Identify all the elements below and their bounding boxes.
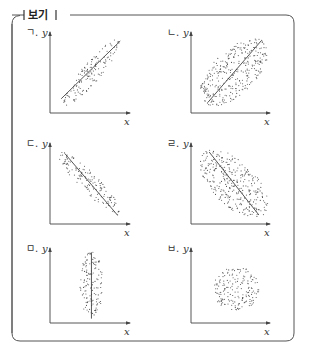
data-point [260, 71, 261, 72]
data-point [239, 165, 240, 166]
data-point [238, 297, 239, 298]
data-point [232, 269, 233, 270]
data-point [251, 294, 252, 295]
data-point [94, 176, 95, 177]
data-point [227, 164, 228, 165]
data-point [238, 61, 239, 62]
data-point [213, 159, 214, 160]
data-point [204, 100, 205, 101]
data-point [221, 181, 222, 182]
data-point [244, 179, 245, 180]
data-point [91, 67, 92, 68]
data-point [219, 282, 220, 283]
data-point [224, 88, 225, 89]
data-point [260, 210, 261, 211]
data-point [237, 208, 238, 209]
data-point [236, 71, 237, 72]
data-point [87, 74, 88, 75]
data-point [216, 85, 217, 86]
data-point [221, 305, 222, 306]
data-point [111, 60, 112, 61]
data-point [247, 49, 248, 50]
data-point [233, 180, 234, 181]
data-point [62, 163, 63, 164]
data-point [249, 305, 250, 306]
data-point [113, 206, 114, 207]
data-point [105, 66, 106, 67]
data-point [205, 91, 206, 92]
data-point [92, 182, 93, 183]
data-point [200, 161, 201, 162]
data-point [221, 200, 222, 201]
data-point [246, 63, 247, 64]
data-point [92, 262, 93, 263]
data-point [65, 159, 66, 160]
data-point [228, 299, 229, 300]
data-point [234, 270, 235, 271]
data-point [234, 301, 235, 302]
data-point [109, 59, 110, 60]
data-point [232, 88, 233, 89]
data-point [64, 152, 65, 153]
data-point [59, 159, 60, 160]
data-point [254, 292, 255, 293]
data-point [95, 57, 96, 58]
data-point [118, 211, 119, 212]
data-point [84, 271, 85, 272]
data-point [226, 66, 227, 67]
data-point [266, 59, 267, 60]
x-axis-label: x [124, 227, 130, 238]
data-point [98, 261, 99, 262]
data-point [253, 201, 254, 202]
data-point [230, 294, 231, 295]
data-point [256, 78, 257, 79]
data-point [212, 174, 213, 175]
data-point [70, 161, 71, 162]
data-point [110, 43, 111, 44]
data-point [221, 303, 222, 304]
data-point [100, 190, 101, 191]
data-point [217, 58, 218, 59]
data-point [245, 173, 246, 174]
data-point [80, 88, 81, 89]
data-point [227, 272, 228, 273]
data-point [84, 169, 85, 170]
data-point [257, 282, 258, 283]
data-point [265, 53, 266, 54]
data-point [237, 182, 238, 183]
data-point [230, 92, 231, 93]
data-point [91, 194, 92, 195]
data-point [97, 287, 98, 288]
data-point [100, 283, 101, 284]
data-point [101, 292, 102, 293]
data-point [84, 185, 85, 186]
data-point [240, 197, 241, 198]
data-point [258, 291, 259, 292]
data-point [110, 44, 111, 45]
data-point [257, 191, 258, 192]
data-point [209, 70, 210, 71]
data-point [238, 303, 239, 304]
data-point [249, 290, 250, 291]
data-point [248, 73, 249, 74]
data-point [69, 170, 70, 171]
data-point [255, 190, 256, 191]
data-point [254, 68, 255, 69]
data-point [236, 192, 237, 193]
data-point [249, 191, 250, 192]
data-point [217, 89, 218, 90]
data-point [73, 90, 74, 91]
data-point [235, 82, 236, 83]
data-point [212, 69, 213, 70]
data-point [221, 89, 222, 90]
data-point [249, 301, 250, 302]
data-point [248, 44, 249, 45]
data-point [221, 301, 222, 302]
data-point [243, 47, 244, 48]
data-point [62, 155, 63, 156]
data-point [87, 302, 88, 303]
data-point [80, 290, 81, 291]
data-point [220, 196, 221, 197]
data-point [97, 298, 98, 299]
data-point [80, 162, 81, 163]
